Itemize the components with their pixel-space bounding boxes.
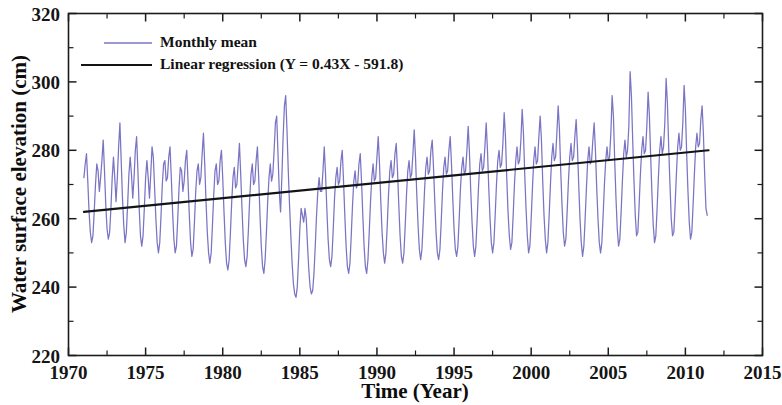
chart-legend: Monthly mean Linear regression (Y = 0.43… [81, 33, 403, 73]
chart-figure: 1970197519801985199019952000200520102015… [0, 0, 782, 405]
y-tick-label: 300 [32, 72, 61, 93]
legend-label-monthly-mean: Monthly mean [160, 33, 257, 50]
x-tick-label: 2010 [666, 362, 704, 383]
x-tick-label: 1985 [281, 362, 319, 383]
y-axis-title: Water surface elevation (cm) [7, 55, 31, 313]
y-tick-label: 220 [32, 346, 61, 367]
water-surface-elevation-chart: 1970197519801985199019952000200520102015… [0, 0, 782, 405]
y-tick-label: 260 [32, 209, 61, 230]
y-tick-label: 280 [32, 140, 61, 161]
series-monthly-mean [84, 72, 707, 298]
x-tick-label: 2005 [589, 362, 627, 383]
y-tick-label: 320 [32, 4, 61, 25]
x-axis-title: Time (Year) [361, 379, 469, 403]
x-tick-label: 2015 [744, 362, 782, 383]
x-tick-label: 1980 [204, 362, 242, 383]
x-tick-label: 2000 [512, 362, 550, 383]
y-axis-tick-labels: 220240260280300320 [32, 4, 61, 367]
x-tick-label: 1975 [127, 362, 165, 383]
y-tick-label: 240 [32, 277, 61, 298]
legend-label-linear-regression: Linear regression (Y = 0.43X - 591.8) [160, 55, 403, 73]
